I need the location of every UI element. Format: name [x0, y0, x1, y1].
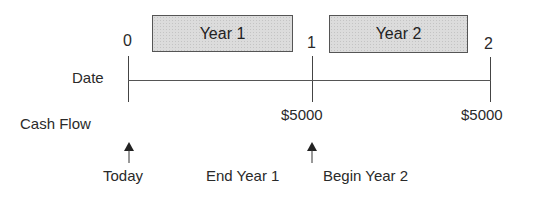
arrow-up-icon: [123, 142, 135, 164]
cash-flow-row-label: Cash Flow: [20, 115, 91, 132]
cash-flow-value-year-2: $5000: [461, 106, 503, 123]
period-label: Year 1: [200, 25, 246, 42]
period-label: Year 2: [376, 25, 422, 42]
tick-label-0: 0: [123, 32, 132, 50]
timeline-tick-1: [312, 56, 313, 102]
tick-label-2: 2: [484, 35, 493, 53]
annotation-begin-year-2: Begin Year 2: [323, 167, 408, 184]
date-row-label: Date: [72, 69, 104, 86]
tick-label-1: 1: [307, 34, 316, 52]
annotation-end-year-1: End Year 1: [206, 167, 279, 184]
arrow-up-icon: [306, 142, 318, 164]
timeline-axis: [128, 80, 491, 81]
cash-flow-value-year-1: $5000: [281, 106, 323, 123]
period-box-year-2: Year 2: [329, 15, 468, 53]
timeline-tick-0: [128, 56, 129, 102]
period-box-year-1: Year 1: [152, 15, 293, 52]
annotation-today: Today: [103, 167, 143, 184]
